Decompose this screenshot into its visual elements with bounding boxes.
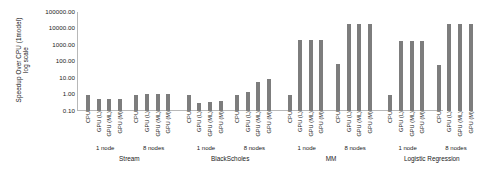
benchmark-label: BlackScholes <box>173 155 288 163</box>
x-tick-label-wrap: GPU (M) <box>163 111 173 145</box>
bar <box>97 99 101 111</box>
x-tick-label: GPU (ML) <box>457 111 463 145</box>
node-group-label: 8 nodes <box>326 145 384 152</box>
x-tick-label: GPU (L) <box>196 111 202 145</box>
x-tick-label-wrap: CPU <box>83 111 93 145</box>
benchmark-label: Stream <box>72 155 187 163</box>
x-tick-label: CPU <box>387 111 393 145</box>
x-tick-label: GPU (M) <box>165 111 171 145</box>
x-tick-label: GPU (ML) <box>207 111 213 145</box>
x-tick-label: GPU (ML) <box>409 111 415 145</box>
bar <box>267 79 271 111</box>
x-tick-label-wrap: CPU <box>285 111 295 145</box>
y-axis-title-line1: Speedup Over CPU (1model) <box>15 18 23 103</box>
x-tick-label: GPU (ML) <box>106 111 112 145</box>
x-tick-label: GPU (M) <box>117 111 123 145</box>
x-tick-label: CPU <box>85 111 91 145</box>
bar <box>368 24 372 111</box>
x-tick-label: GPU (L) <box>398 111 404 145</box>
bar <box>107 99 111 111</box>
benchmark-label: Logistic Regression <box>374 155 479 163</box>
x-tick-label: GPU (ML) <box>356 111 362 145</box>
x-tick-label: CPU <box>436 111 442 145</box>
bar <box>219 101 223 111</box>
x-tick-label: GPU (M) <box>367 111 373 145</box>
node-group-label: 8 nodes <box>124 145 182 152</box>
bar <box>410 41 414 111</box>
bar <box>208 102 212 111</box>
y-tick-label: 10000.00 <box>22 25 75 31</box>
benchmark-label: MM <box>274 155 389 163</box>
x-tick-label-wrap: GPU (L) <box>243 111 253 145</box>
x-tick-label-wrap: GPU (ML) <box>104 111 114 145</box>
x-tick-label: GPU (ML) <box>255 111 261 145</box>
bar <box>256 82 260 111</box>
x-tick-label: GPU (ML) <box>155 111 161 145</box>
y-tick-label: 100.00 <box>22 58 75 64</box>
x-tick-label: CPU <box>234 111 240 145</box>
bar <box>447 24 451 111</box>
bar <box>399 41 403 111</box>
x-tick-label: GPU (L) <box>346 111 352 145</box>
bar <box>187 95 191 112</box>
x-tick-label-wrap: CPU <box>333 111 343 145</box>
bar-series <box>77 12 443 111</box>
x-tick-label-wrap: GPU (M) <box>115 111 125 145</box>
bar <box>145 94 149 111</box>
x-tick-label: CPU <box>133 111 139 145</box>
bar <box>134 95 138 112</box>
x-tick-label: GPU (M) <box>218 111 224 145</box>
y-tick-label: 1000.00 <box>22 42 75 48</box>
bar <box>156 94 160 111</box>
x-tick-label: GPU (M) <box>318 111 324 145</box>
x-tick-label-wrap: GPU (M) <box>417 111 427 145</box>
x-tick-label-wrap: GPU (L) <box>94 111 104 145</box>
x-tick-label: GPU (L) <box>297 111 303 145</box>
x-tick-label: GPU (L) <box>96 111 102 145</box>
x-tick-label-wrap: GPU (L) <box>444 111 454 145</box>
node-group-label: 8 nodes <box>427 145 479 152</box>
bar <box>469 24 473 111</box>
x-tick-label-wrap: GPU (M) <box>216 111 226 145</box>
x-tick-label-wrap: GPU (ML) <box>407 111 417 145</box>
bar <box>336 64 340 111</box>
y-tick-label: 100000.00 <box>22 9 75 15</box>
x-tick-label-wrap: GPU (ML) <box>306 111 316 145</box>
y-tick-label: 1.00 <box>22 91 75 97</box>
bar <box>437 65 441 111</box>
x-axis-tick-labels: CPUGPU (L)GPU (ML)GPU (M)CPUGPU (L)GPU (… <box>77 111 443 145</box>
x-tick-label-wrap: GPU (ML) <box>253 111 263 145</box>
bar <box>86 95 90 112</box>
node-group-labels: 1 node8 nodes1 node8 nodes1 node8 nodes1… <box>77 145 443 155</box>
y-tick-label: 10.00 <box>22 75 75 81</box>
bar <box>420 41 424 111</box>
x-tick-label: GPU (M) <box>266 111 272 145</box>
x-tick-label: GPU (L) <box>245 111 251 145</box>
x-tick-label-wrap: GPU (L) <box>295 111 305 145</box>
x-tick-label-wrap: CPU <box>232 111 242 145</box>
bar <box>357 24 361 111</box>
x-tick-label-wrap: GPU (ML) <box>455 111 465 145</box>
x-tick-label-wrap: GPU (M) <box>466 111 476 145</box>
x-tick-label: GPU (L) <box>446 111 452 145</box>
x-tick-label-wrap: CPU <box>434 111 444 145</box>
bar <box>458 24 462 111</box>
bar <box>319 40 323 111</box>
x-tick-label-wrap: GPU (M) <box>365 111 375 145</box>
x-tick-label-wrap: GPU (L) <box>194 111 204 145</box>
x-tick-label-wrap: GPU (ML) <box>205 111 215 145</box>
plot-area <box>77 12 443 111</box>
y-tick-label: 0.10 <box>22 108 75 114</box>
node-group-label: 8 nodes <box>225 145 283 152</box>
x-tick-label: GPU (M) <box>419 111 425 145</box>
x-tick-label: CPU <box>287 111 293 145</box>
x-tick-label-wrap: GPU (ML) <box>354 111 364 145</box>
benchmark-labels: StreamBlackScholesMMLogistic Regression <box>77 155 443 167</box>
x-tick-label: CPU <box>186 111 192 145</box>
x-tick-label-wrap: GPU (L) <box>344 111 354 145</box>
x-tick-label-wrap: GPU (ML) <box>153 111 163 145</box>
x-tick-label-wrap: GPU (L) <box>396 111 406 145</box>
bar <box>246 92 250 111</box>
x-tick-label-wrap: GPU (M) <box>264 111 274 145</box>
